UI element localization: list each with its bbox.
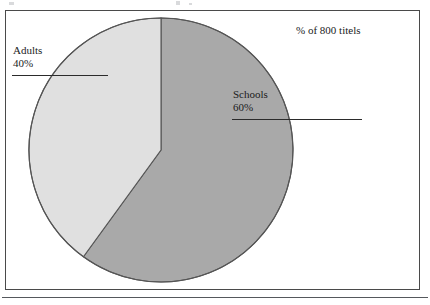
pie-chart-figure: % of 800 titels Adults 40% Schools 60% — [0, 0, 430, 305]
leader-line-schools — [232, 119, 362, 120]
chart-annotation-total: % of 800 titels — [296, 24, 360, 37]
pie-chart-graphic — [0, 0, 430, 305]
callout-schools-name: Schools — [233, 88, 268, 100]
callout-adults-percent: 40% — [13, 57, 42, 70]
callout-adults-name: Adults — [13, 44, 42, 56]
callout-adults: Adults 40% — [13, 44, 42, 70]
callout-schools-percent: 60% — [233, 101, 268, 114]
leader-line-adults — [12, 75, 108, 76]
callout-schools: Schools 60% — [233, 88, 268, 114]
page-divider-rule — [2, 297, 428, 298]
